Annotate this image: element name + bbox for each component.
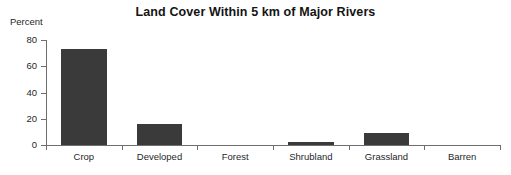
x-axis-tick (273, 145, 274, 150)
y-axis-tick-label: 40 (26, 87, 37, 98)
y-axis-tick-label: 60 (26, 60, 37, 71)
y-axis-unit-label: Percent (10, 16, 43, 27)
category-label-barren: Barren (424, 151, 500, 162)
bar-shrubland (288, 142, 333, 145)
bar-developed (137, 124, 182, 145)
y-axis-tick: 40 (41, 93, 47, 94)
y-axis-tick-label: 0 (32, 139, 37, 150)
category-label-crop: Crop (46, 151, 122, 162)
bar-crop (61, 49, 106, 145)
category-label-developed: Developed (122, 151, 198, 162)
y-axis-tick-label: 80 (26, 34, 37, 45)
category-label-grassland: Grassland (349, 151, 425, 162)
y-axis-tick: 20 (41, 119, 47, 120)
x-axis-tick (197, 145, 198, 150)
bar-chart-figure: Land Cover Within 5 km of Major Rivers P… (0, 0, 511, 175)
x-axis-tick (424, 145, 425, 150)
y-axis-tick: 80 (41, 40, 47, 41)
category-label-shrubland: Shrubland (273, 151, 349, 162)
x-axis-tick (500, 145, 501, 150)
x-axis-tick (122, 145, 123, 150)
bar-grassland (364, 133, 409, 145)
x-axis-tick (46, 145, 47, 150)
y-axis-tick-label: 20 (26, 113, 37, 124)
x-axis-tick (349, 145, 350, 150)
category-label-forest: Forest (197, 151, 273, 162)
plot-area: 020406080 CropDevelopedForestShrublandGr… (46, 38, 500, 145)
y-axis-tick: 60 (41, 66, 47, 67)
chart-title: Land Cover Within 5 km of Major Rivers (0, 5, 511, 19)
